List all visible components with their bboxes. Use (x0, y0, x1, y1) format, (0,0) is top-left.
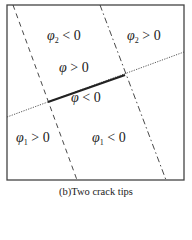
label-phi2-negative: φ2 < 0 (47, 29, 81, 48)
label-phi1-positive: φ1 > 0 (16, 131, 50, 150)
label-varphi-positive: φ > 0 (59, 61, 89, 75)
figure-caption: (b)Two crack tips (0, 186, 192, 197)
label-phi1-negative: φ1 < 0 (92, 131, 126, 150)
label-varphi-negative: φ < 0 (71, 91, 101, 105)
label-phi2-positive: φ2 > 0 (127, 29, 161, 48)
